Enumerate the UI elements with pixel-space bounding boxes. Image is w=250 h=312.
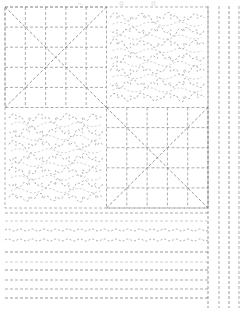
page-background [0, 0, 250, 312]
quilt-pattern-canvas: Quilting Pattern Layout [0, 0, 250, 312]
quilt-pattern-artwork [0, 0, 250, 312]
